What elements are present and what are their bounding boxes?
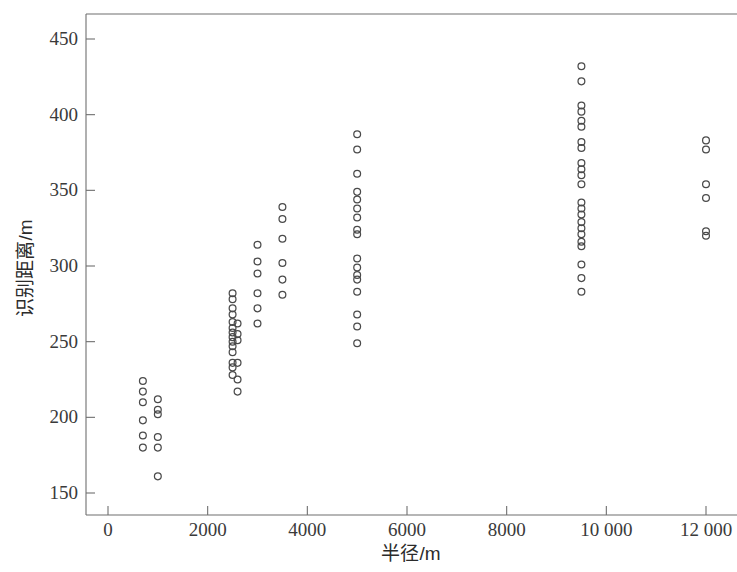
y-tick-label: 400 [50, 104, 79, 125]
y-tick-label: 350 [50, 179, 79, 200]
x-tick-label: 8000 [488, 519, 526, 540]
y-axis-title: 识别距离/m [15, 219, 36, 316]
x-tick-label: 4000 [288, 519, 326, 540]
y-tick-label: 200 [50, 406, 79, 427]
y-tick-label: 450 [50, 28, 79, 49]
scatter-plot-figure: 150200250300350400450 020004000600080001… [0, 0, 737, 572]
y-tick-label: 250 [50, 331, 79, 352]
y-tick-label: 150 [50, 482, 79, 503]
plot-canvas: 150200250300350400450 020004000600080001… [0, 0, 737, 572]
plot-background [0, 0, 737, 572]
y-tick-label: 300 [50, 255, 79, 276]
x-axis-title: 半径/m [381, 543, 440, 564]
x-tick-label: 6000 [388, 519, 426, 540]
x-tick-label: 10 000 [580, 519, 632, 540]
x-tick-label: 0 [103, 519, 113, 540]
x-tick-label: 2000 [189, 519, 227, 540]
x-tick-label: 12 000 [680, 519, 732, 540]
